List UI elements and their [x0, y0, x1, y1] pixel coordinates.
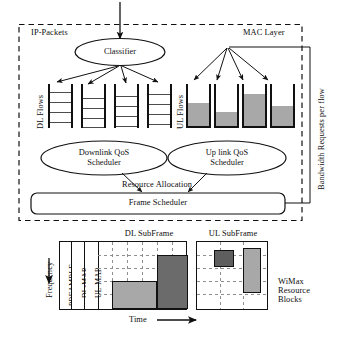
- dl-queue-4-divider: [149, 104, 170, 105]
- dl-queue-2-divider: [83, 127, 104, 128]
- ul-bucket-2-fill: [216, 112, 237, 126]
- classifier-label: Classifier: [80, 47, 160, 57]
- dl-queue-1-divider: [50, 112, 71, 113]
- frequency-axis-label: Frequency: [45, 262, 54, 298]
- ul-bucket-1-fill: [188, 103, 209, 126]
- uplink-qos-scheduler-label: Up link QoS Scheduler: [169, 148, 285, 167]
- dl-queue-2-divider: [83, 118, 104, 119]
- dl-queue-3-right-wall: [137, 84, 139, 128]
- dl-queue-2-right-wall: [104, 84, 106, 128]
- dl-queue-3-divider: [116, 126, 137, 127]
- ul-bucket-3-right-wall: [265, 84, 267, 128]
- uplink-qos-scheduler-label-line1: Up link QoS: [206, 148, 248, 157]
- dl-queue-2-left-wall: [81, 84, 83, 128]
- dl-queue-4: [147, 84, 172, 128]
- ul-subframe-grid: [196, 241, 268, 310]
- dl-queue-2-divider: [83, 108, 104, 109]
- frame-scheduler-label: Frame Scheduler: [118, 198, 198, 207]
- wimax-resource-blocks-label: WiMax Resource Blocks: [278, 277, 310, 304]
- dl-queue-4-divider: [149, 124, 170, 125]
- resource-allocation-label: Resource Allocation: [112, 180, 202, 189]
- dl-queue-4-divider: [149, 114, 170, 115]
- ul-bucket-4-fill: [272, 106, 293, 126]
- dl-queue-4-divider: [149, 94, 170, 95]
- ul-block-dark: [214, 250, 234, 267]
- ul-bucket-1: [186, 84, 211, 128]
- wimax-resource-blocks-line-2: Resource: [278, 286, 310, 295]
- dl-subframe-label: DL SubFrame: [109, 229, 189, 238]
- bandwidth-requests-label: Bandwidth Requests per flow: [317, 88, 326, 190]
- ul-bucket-1-floor: [186, 126, 211, 128]
- downlink-qos-scheduler-label-line1: Downlink QoS: [79, 148, 130, 157]
- dl-block-light: [112, 281, 157, 309]
- classifier-to-dl-queue-2-arrow: [88, 66, 119, 84]
- dl-queue-3-divider: [116, 106, 137, 107]
- ul-bucket-2-floor: [214, 126, 239, 128]
- preamble-column: PREAMBLE: [60, 242, 72, 309]
- dl-queue-2-divider: [83, 98, 104, 99]
- dl-queue-1: [48, 84, 73, 128]
- dl-queue-4-left-wall: [147, 84, 149, 128]
- wimax-resource-blocks-line-3: Blocks: [278, 295, 302, 304]
- ul-subframe-label: UL SubFrame: [193, 229, 273, 238]
- ul-bucket-2: [214, 84, 239, 128]
- classifier-to-dl-queue-1-arrow: [57, 66, 118, 82]
- dl-queue-3: [114, 84, 139, 128]
- ul-grid-row-line: [197, 294, 267, 295]
- dl-queue-1-divider: [50, 122, 71, 123]
- ul-block-light: [243, 248, 261, 293]
- time-axis-label: Time: [129, 315, 147, 324]
- ul-bucket-4-floor: [270, 126, 295, 128]
- ul-flows-label: UL Flows: [176, 95, 185, 129]
- ul-bucket-1-right-wall: [209, 84, 211, 128]
- ul-bucket-3: [242, 84, 267, 128]
- ip-packets-label: IP-Packets: [31, 28, 68, 37]
- ul-bucket-3-fill: [244, 94, 265, 126]
- dl-map-column: DL-MAP: [72, 242, 85, 309]
- ul-bucket-4-right-wall: [293, 84, 295, 128]
- downlink-qos-scheduler-label: Downlink QoS Scheduler: [44, 148, 164, 167]
- wimax-scheduling-diagram: IP-Packets MAC Layer Bandwidth Requests …: [0, 0, 340, 337]
- wimax-resource-blocks-line-1: WiMax: [278, 277, 304, 286]
- classifier-to-dl-queue-3-arrow: [121, 66, 126, 83]
- classifier-to-dl-queue-4-arrow: [122, 66, 158, 82]
- dl-queue-1-divider: [50, 92, 71, 93]
- ul-bucket-3-floor: [242, 126, 267, 128]
- dl-queue-1-divider: [50, 102, 71, 103]
- ul-bucket-4: [270, 84, 295, 128]
- dl-queue-1-right-wall: [71, 84, 73, 128]
- dl-queue-3-divider: [116, 116, 137, 117]
- dl-flows-label: DL Flows: [36, 95, 45, 129]
- ul-map-column: UL-MAP: [86, 242, 99, 309]
- dl-subframe-grid: PREAMBLE DL-MAP UL-MAP: [59, 241, 187, 310]
- bw-request-to-ul-bucket-4-arrow: [229, 48, 268, 80]
- ul-bucket-2-right-wall: [237, 84, 239, 128]
- downlink-qos-scheduler-label-line2: Scheduler: [87, 158, 121, 167]
- dl-queue-4-right-wall: [170, 84, 172, 128]
- uplink-qos-scheduler-label-line2: Scheduler: [210, 158, 244, 167]
- dl-block-dark: [157, 255, 188, 309]
- dl-queue-3-divider: [116, 96, 137, 97]
- mac-layer-label: MAC Layer: [243, 28, 285, 37]
- dl-queue-2: [81, 84, 106, 128]
